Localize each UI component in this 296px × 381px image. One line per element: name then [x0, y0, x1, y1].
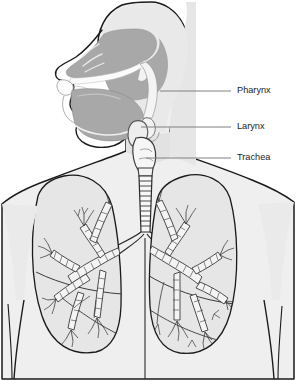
right-lung — [146, 175, 240, 354]
label-text-trachea: Trachea — [237, 152, 271, 162]
respiratory-anatomy-figure: Pharynx Larynx Trachea — [0, 0, 296, 381]
left-lung — [32, 175, 122, 353]
label-text-pharynx: Pharynx — [237, 85, 271, 95]
label-text-larynx: Larynx — [237, 121, 265, 131]
